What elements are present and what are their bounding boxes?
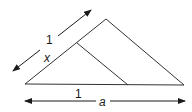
top-dimension-arrow: [13, 50, 40, 71]
label-x: x: [43, 51, 51, 65]
top-dimension-arrow-upper: [58, 10, 91, 36]
inner-triangle-side: [77, 43, 128, 85]
label-a: a: [99, 95, 106, 109]
similar-triangles-diagram: 1 x 1 a: [0, 0, 192, 112]
label-top-one: 1: [46, 33, 53, 47]
base-line: [25, 84, 184, 85]
label-base-one: 1: [75, 87, 82, 101]
